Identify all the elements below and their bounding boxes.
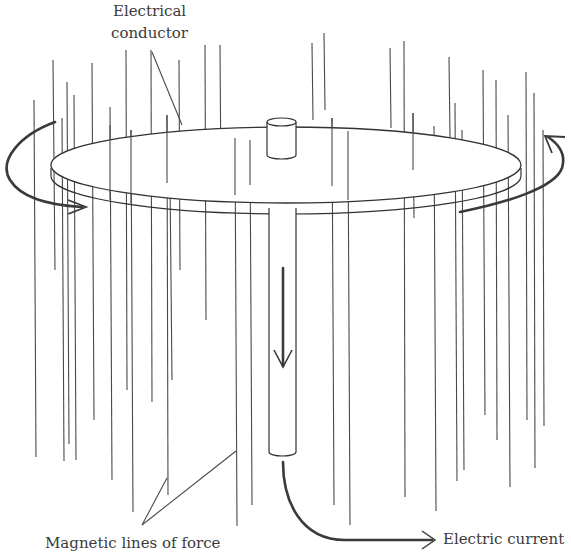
label-electrical: Electrical bbox=[113, 2, 186, 20]
label-magnetic-lines: Magnetic lines of force bbox=[45, 534, 221, 552]
label-conductor: conductor bbox=[111, 24, 189, 42]
label-electric-current: Electric current bbox=[443, 530, 564, 548]
leader-lines bbox=[142, 52, 236, 525]
faraday-disk-diagram: Electrical conductor Magnetic lines of f… bbox=[0, 0, 571, 557]
axle-top bbox=[267, 118, 296, 159]
output-wire bbox=[283, 462, 435, 549]
